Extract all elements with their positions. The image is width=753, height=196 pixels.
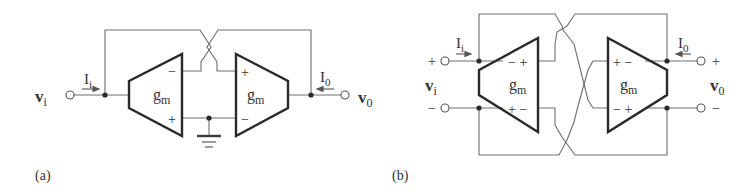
- amp-left-top-sign: −: [168, 64, 176, 79]
- amp-left-gm-label: gm: [153, 86, 171, 107]
- input-voltage-label: vi: [425, 76, 438, 98]
- input-minus-node-dot: [476, 105, 481, 110]
- amp-left-bottom-sign: +: [168, 112, 176, 127]
- amp-right-top-signs: + −: [613, 55, 632, 70]
- amp-left-top-signs: − +: [508, 55, 527, 70]
- output-plus-sign: +: [712, 54, 720, 69]
- panel-a: vi Ii v0 I0 gm gm − + + − (a): [35, 30, 373, 184]
- amp-right-bottom-signs: − +: [613, 102, 632, 117]
- ground-node-dot: [206, 115, 211, 120]
- feedback-wire-right: [207, 30, 311, 95]
- amp-left-gm-label: gm: [509, 76, 527, 97]
- output-voltage-label: v0: [358, 88, 373, 110]
- panel-b: + − + − vi Ii v0 I0 gm gm − + + − + − − …: [392, 14, 725, 184]
- output-minus-node-dot: [664, 105, 669, 110]
- amp-right-top-sign: +: [241, 65, 249, 80]
- amp-right-gm-label: gm: [247, 86, 265, 107]
- input-terminal: [66, 91, 74, 99]
- output-terminal: [341, 91, 349, 99]
- panel-a-caption: (a): [35, 168, 51, 184]
- output-current-label: I0: [678, 35, 689, 54]
- transconductor-right: [608, 38, 667, 132]
- diag-wire-right-to-bottom: [567, 61, 608, 140]
- top-wire-right: [538, 14, 667, 61]
- output-current-label: I0: [320, 69, 331, 88]
- input-current-label: Ii: [84, 71, 92, 90]
- output-plus-node-dot: [664, 58, 669, 63]
- top-wire-left: [479, 14, 563, 61]
- output-node-dot: [308, 92, 313, 97]
- input-minus-terminal: [441, 104, 449, 112]
- output-minus-sign: −: [712, 101, 720, 116]
- output-plus-terminal: [697, 57, 705, 65]
- amp-left-bottom-signs: + −: [508, 102, 527, 117]
- input-plus-node-dot: [476, 58, 481, 63]
- input-plus-sign: +: [428, 54, 436, 69]
- input-current-label: Ii: [456, 35, 464, 54]
- input-plus-terminal: [441, 57, 449, 65]
- gyrator-circuit-figure: vi Ii v0 I0 gm gm − + + − (a): [0, 0, 753, 196]
- panel-b-caption: (b): [392, 168, 409, 184]
- output-minus-terminal: [697, 104, 705, 112]
- output-voltage-label: v0: [710, 76, 725, 98]
- bottom-wire-right: [538, 108, 667, 155]
- input-minus-sign: −: [428, 101, 436, 116]
- amp-right-gm-label: gm: [620, 76, 638, 97]
- amp-right-bottom-sign: −: [241, 112, 249, 127]
- ground-icon: [197, 136, 221, 147]
- input-node-dot: [102, 92, 107, 97]
- diag-wire-top-to-right: [563, 30, 608, 108]
- input-voltage-label: vi: [35, 87, 48, 109]
